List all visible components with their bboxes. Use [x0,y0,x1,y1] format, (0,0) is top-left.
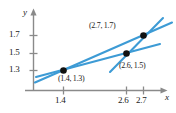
point-label-2-6-1-5: (2.6, 1.5) [119,61,145,70]
x-tick-label-2-7: 2.7 [136,95,147,105]
y-axis-label: y [23,7,27,17]
y-tick-label-1-3: 1.3 [9,64,20,74]
y-tick-label-1-5: 1.5 [9,47,20,57]
figure-coordinate-plane: 1.7 1.5 1.3 1.4 2.6 2.7 y x (2.7, 1.7) (… [0,0,176,113]
y-axis-arrow-icon [30,9,36,16]
x-tick-label-2-6: 2.6 [118,95,129,105]
x-axis-label: x [165,92,169,102]
data-point-2-6-1-5 [123,50,130,57]
y-tick-label-1-7: 1.7 [9,29,20,39]
point-label-2-7-1-7: (2.7, 1.7) [89,21,115,30]
point-label-1-4-1-3: (1.4, 1.3) [58,74,84,83]
data-point-1-4-1-3 [60,67,67,74]
data-point-2-7-1-7 [140,32,147,39]
x-tick-label-1-4: 1.4 [55,95,66,105]
secant-line-long [35,23,172,83]
